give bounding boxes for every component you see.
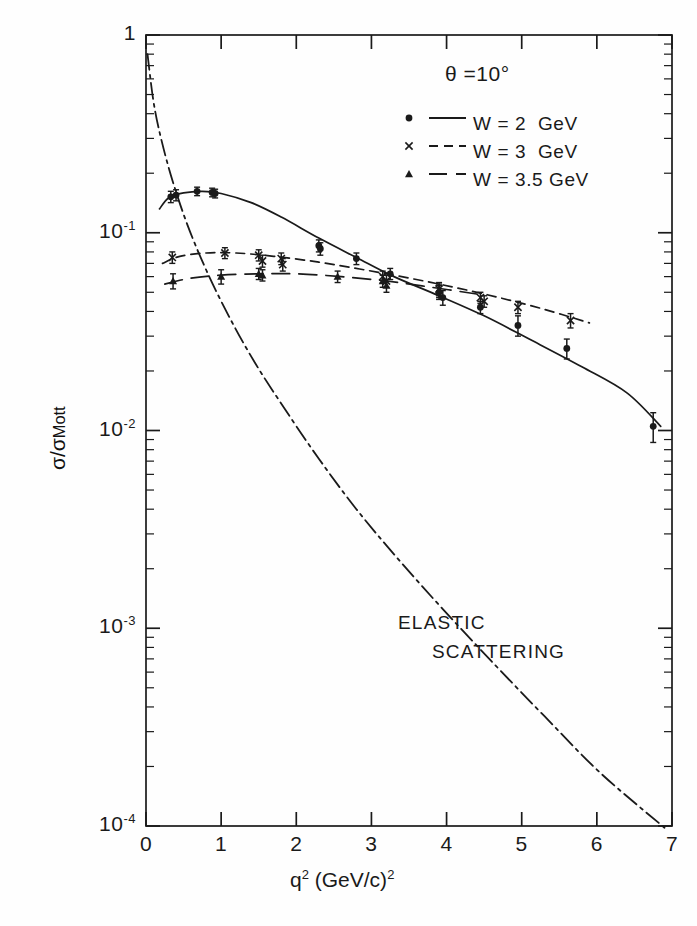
x-tick-label-1: 1 — [209, 832, 233, 856]
legend-sample-lines — [405, 115, 466, 178]
data-points — [167, 187, 656, 442]
y-tick-label-1e-1: 10-1 — [62, 219, 136, 243]
elastic-leader-line — [352, 566, 396, 610]
x-tick-label-5: 5 — [510, 832, 534, 856]
axis-ticks — [146, 35, 672, 826]
x-tick-label-0: 0 — [134, 832, 158, 856]
x-tick-label-7: 7 — [660, 832, 684, 856]
legend-label-w2: W = 2 GeV — [473, 113, 578, 135]
x-axis-title: q2 (GeV/c)2 — [290, 868, 394, 892]
x-tick-label-2: 2 — [284, 832, 308, 856]
elastic-annotation-line2: SCATTERING — [432, 641, 565, 663]
y-axis-title: σ/σMott — [46, 406, 70, 470]
legend-label-w35: W = 3.5 GeV — [473, 169, 589, 191]
y-tick-label-1e-3: 10-3 — [62, 614, 136, 638]
plot-canvas — [0, 0, 697, 926]
figure-root: 1 10-1 10-2 10-3 10-4 01234567 σ/σMott q… — [0, 0, 697, 926]
y-tick-label-1e-4: 10-4 — [62, 812, 136, 836]
elastic-annotation-line1: ELASTIC — [398, 612, 486, 634]
x-tick-label-3: 3 — [359, 832, 383, 856]
y-tick-label-1e-2: 10-2 — [62, 417, 136, 441]
x-tick-label-6: 6 — [585, 832, 609, 856]
x-tick-label-4: 4 — [435, 832, 459, 856]
y-tick-label-1: 1 — [122, 21, 136, 45]
legend-label-w3: W = 3 GeV — [473, 141, 578, 163]
theta-annotation: θ =10° — [445, 62, 510, 86]
plot-frame — [146, 35, 672, 826]
